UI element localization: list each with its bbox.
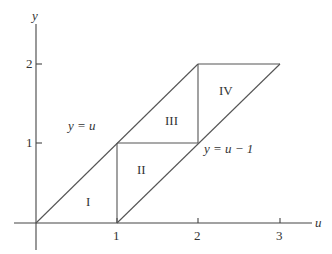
u-tick-label-1: 1 — [113, 228, 120, 243]
region-diagram: y u 1 2 3 1 2 y = u y = u − 1 I II III I… — [0, 0, 332, 254]
label-y-equals-u-minus-1: y = u − 1 — [202, 141, 253, 156]
region-label-II: II — [137, 162, 146, 177]
u-tick-label-2: 2 — [194, 228, 201, 243]
region-label-IV: IV — [219, 83, 233, 98]
u-axis-label: u — [315, 215, 322, 230]
y-tick-label-1: 1 — [26, 135, 33, 150]
y-axis-label: y — [30, 8, 38, 23]
region-label-I: I — [86, 194, 90, 209]
y-tick-label-2: 2 — [26, 56, 33, 71]
label-y-equals-u: y = u — [66, 118, 96, 133]
u-tick-label-3: 3 — [276, 228, 283, 243]
region-label-III: III — [165, 113, 178, 128]
